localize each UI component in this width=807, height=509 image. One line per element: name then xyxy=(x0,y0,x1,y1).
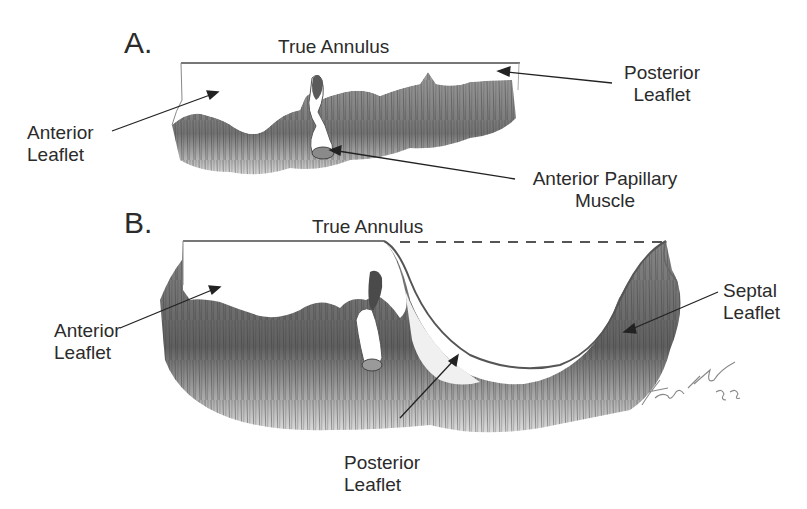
panel-b-annulus-label: True Annulus xyxy=(312,216,423,238)
label-line-1: Posterior xyxy=(344,452,420,474)
panel-b-label: B. xyxy=(124,208,152,238)
label-line-1: Anterior xyxy=(54,320,121,342)
label-line-2: Leaflet xyxy=(723,302,780,324)
panel-a-anterior-leaflet-label: Anterior Leaflet xyxy=(27,122,94,166)
panel-b-septal-leaflet-label: Septal Leaflet xyxy=(723,280,780,324)
panel-a-papillary-muscle-label: Anterior Papillary Muscle xyxy=(515,168,695,212)
label-line-1: Anterior Papillary xyxy=(515,168,695,190)
label-line-1: Anterior xyxy=(27,122,94,144)
panel-a-annulus-label: True Annulus xyxy=(278,36,389,58)
label-line-1: Posterior xyxy=(616,62,708,84)
label-line-1: Septal xyxy=(723,280,780,302)
panel-b-anterior-leaflet-label: Anterior Leaflet xyxy=(54,320,121,364)
label-line-2: Leaflet xyxy=(344,474,420,496)
label-line-2: Leaflet xyxy=(616,84,708,106)
panel-a-label: A. xyxy=(124,28,152,58)
label-line-2: Leaflet xyxy=(27,144,94,166)
label-line-2: Leaflet xyxy=(54,342,121,364)
panel-b-drawing xyxy=(160,241,681,432)
panel-a-drawing xyxy=(172,63,520,174)
panel-a-posterior-leaflet-label: Posterior Leaflet xyxy=(616,62,708,106)
panel-b-posterior-leaflet-label: Posterior Leaflet xyxy=(344,452,420,496)
label-line-2: Muscle xyxy=(515,190,695,212)
